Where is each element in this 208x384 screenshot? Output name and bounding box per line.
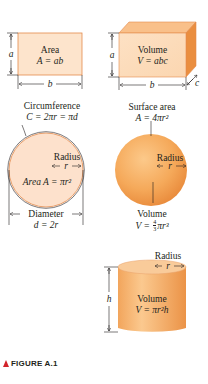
sphere-figure <box>115 121 187 206</box>
box-side-b: b <box>147 80 157 90</box>
caption-triangle-icon <box>3 360 9 367</box>
sphere-volume-formula: V = 4 3 πr³ <box>104 219 200 232</box>
circle-area-formula: Area A = πr² <box>12 177 82 187</box>
circle-diameter-formula: d = 2r <box>0 220 92 230</box>
cylinder-radius-symbol: r <box>162 261 174 271</box>
cylinder-volume-label: Volume <box>118 294 186 304</box>
circle-circumference-label: Circumference <box>0 101 104 111</box>
circle-diameter-label: Diameter <box>20 209 72 219</box>
figure-caption-text: FIGURE A.1 <box>11 359 58 368</box>
sphere-volume-fraction: 4 3 <box>153 219 156 232</box>
sphere-surface-label: Surface area <box>104 102 200 112</box>
circle-radius-symbol: r <box>60 161 72 171</box>
circle-circumference-formula: C = 2πr = πd <box>0 112 104 122</box>
sphere-volume-frac-num: 4 <box>153 219 156 226</box>
cylinder-height-symbol: h <box>104 294 114 304</box>
box-side-c: c <box>192 78 202 88</box>
sphere-volume-frac-den: 3 <box>153 226 156 232</box>
sphere-radius-symbol: r <box>164 161 176 171</box>
figure-caption: FIGURE A.1 <box>3 359 58 368</box>
rectangle-side-a: a <box>6 49 16 59</box>
sphere-volume-prefix: V = <box>135 221 152 231</box>
sphere-volume-label: Volume <box>104 209 200 219</box>
cylinder-radius-label: Radius <box>146 251 190 261</box>
rectangle-formula: A = ab <box>18 56 82 66</box>
rectangle-title: Area <box>18 45 82 55</box>
sphere-surface-formula: A = 4πr² <box>104 113 200 123</box>
cylinder-volume-formula: V = πr²h <box>118 305 186 315</box>
box-formula: V = abc <box>119 56 186 66</box>
sphere-volume-suffix: πr³ <box>157 221 168 231</box>
box-side-a: a <box>107 50 117 60</box>
rectangle-side-b: b <box>45 79 55 89</box>
box-title: Volume <box>119 45 186 55</box>
